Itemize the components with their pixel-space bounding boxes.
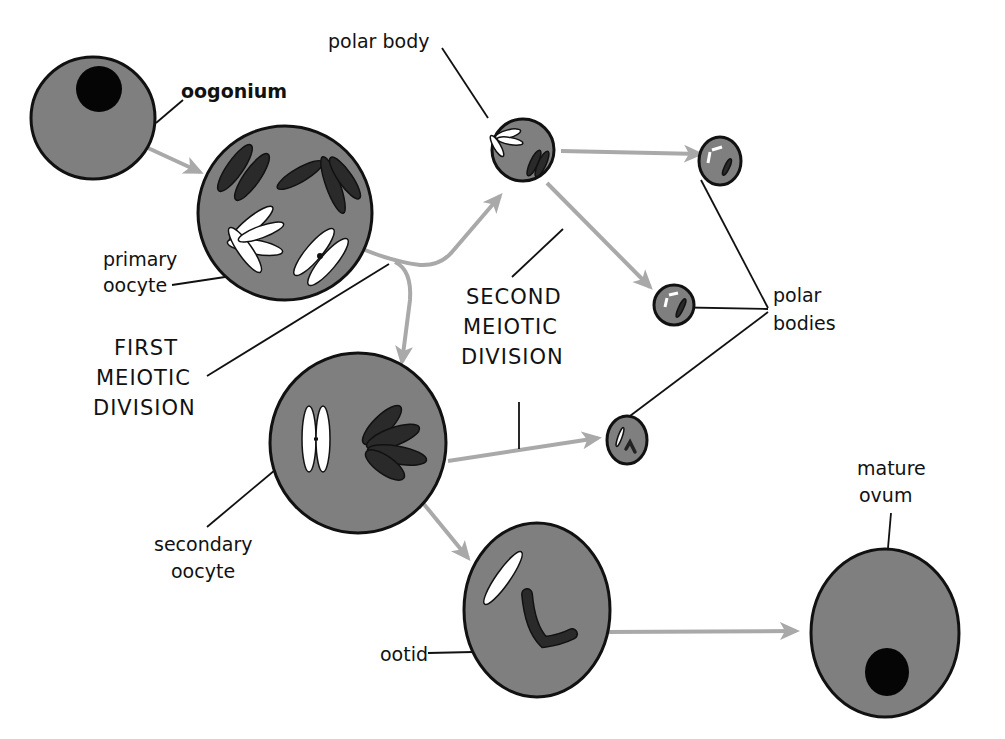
leader-oogonium [156, 100, 183, 123]
oogenesis-diagram: oogonium primary oocyte FIRST MEIOTIC DI… [0, 0, 1005, 739]
label-primary-oocyte-line1: primary [103, 248, 177, 270]
arrow-primary-to-secondary [395, 262, 410, 362]
cell-secondary-oocyte [270, 353, 446, 533]
nucleus [865, 648, 909, 696]
cell-oogonium [31, 57, 155, 179]
label-second-division-line2: MEIOTIC [463, 315, 558, 339]
cell-polar-body-a [699, 137, 741, 185]
arrow-primary-to-polar-body [365, 196, 500, 265]
cell-primary-oocyte [198, 126, 372, 300]
label-polar-bodies-line1: polar [773, 284, 822, 306]
arrow-secondary-to-ootid [423, 503, 468, 558]
label-polar-body: polar body [328, 30, 429, 52]
label-first-division-line3: DIVISION [93, 396, 196, 420]
leader-polar-bodies-a [701, 180, 768, 308]
leader-secondary-oocyte [207, 470, 275, 527]
label-secondary-oocyte-line2: oocyte [171, 560, 235, 582]
label-first-division-line1: FIRST [114, 336, 178, 360]
leader-polar-bodies-c [614, 312, 768, 428]
leader-primary-oocyte [172, 277, 225, 285]
label-first-division-line2: MEIOTIC [96, 366, 191, 390]
arrow-polar-to-polar-b [547, 183, 650, 287]
cell-ootid [464, 523, 610, 697]
label-second-division-line1: SECOND [466, 285, 562, 309]
label-mature-ovum-line2: ovum [859, 484, 912, 506]
arrow-oogonium-to-primary [148, 148, 200, 172]
leader-polar-body [442, 48, 488, 118]
cell-polar-body-first [488, 119, 554, 181]
label-primary-oocyte-line2: oocyte [103, 274, 167, 296]
leader-mature-ovum [888, 513, 891, 548]
nucleus [76, 66, 122, 112]
label-secondary-oocyte-line1: secondary [154, 533, 252, 555]
label-mature-ovum-line1: mature [857, 457, 926, 479]
leader-second-division-top [512, 229, 563, 277]
label-oogonium: oogonium [181, 80, 287, 102]
label-second-division-line3: DIVISION [461, 345, 564, 369]
cell-polar-body-c [607, 416, 647, 464]
arrow-polar-to-polar-a [561, 151, 700, 154]
leader-ootid [428, 652, 473, 653]
cell-mature-ovum [811, 549, 959, 717]
label-ootid: ootid [380, 643, 428, 665]
label-polar-bodies-line2: bodies [773, 312, 836, 334]
arrow-secondary-to-polar-c [448, 438, 598, 461]
arrow-ootid-to-ovum [606, 631, 796, 632]
cell-polar-body-b [654, 285, 694, 325]
